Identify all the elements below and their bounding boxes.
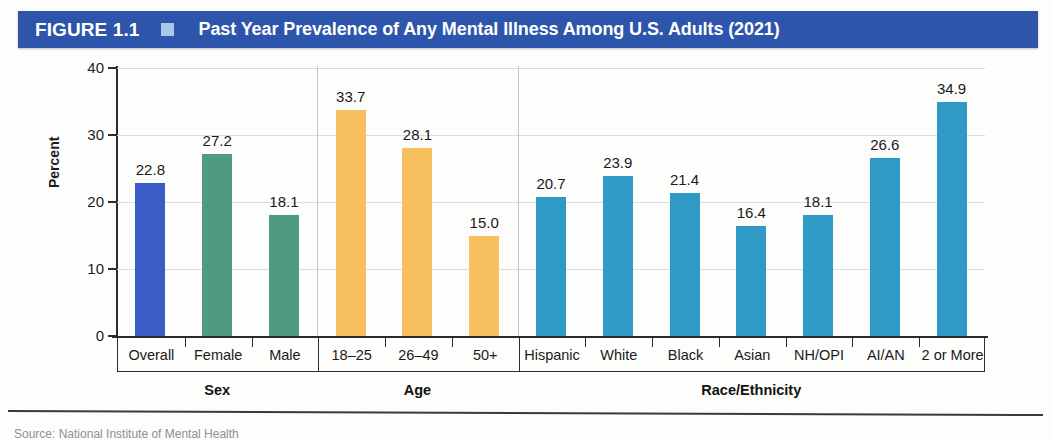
bar-value-label: 18.1 xyxy=(269,193,298,210)
category-tick xyxy=(252,338,253,347)
group-separator xyxy=(518,66,519,336)
category-label: 50+ xyxy=(452,338,519,371)
category-tick xyxy=(452,338,453,347)
y-axis-label: Percent xyxy=(46,137,62,188)
bar-chart: Percent 010203040 22.827.218.133.728.115… xyxy=(0,52,1051,392)
bar-value-label: 26.6 xyxy=(870,136,899,153)
bar xyxy=(670,193,700,336)
category-label: 2 or More xyxy=(919,338,986,371)
y-axis-tick-mark xyxy=(108,268,116,270)
category-group-divider xyxy=(318,338,319,371)
bar-value-label: 20.7 xyxy=(536,175,565,192)
y-axis-tick-label: 30 xyxy=(70,126,104,143)
y-axis-label-wrap: Percent xyxy=(52,68,72,336)
bar xyxy=(870,158,900,336)
category-label: Black xyxy=(652,338,719,371)
category-tick xyxy=(585,338,586,347)
bar xyxy=(135,183,165,336)
bar xyxy=(402,148,432,336)
category-label: 26–49 xyxy=(385,338,452,371)
category-label: Hispanic xyxy=(519,338,586,371)
y-axis-tick-label: 40 xyxy=(70,59,104,76)
figure-title-text: Past Year Prevalence of Any Mental Illne… xyxy=(198,19,779,40)
category-tick xyxy=(919,338,920,347)
footer-divider xyxy=(8,410,1043,416)
category-label-box: OverallFemaleMale18–2526–4950+HispanicWh… xyxy=(117,338,985,372)
bar-value-label: 23.9 xyxy=(603,154,632,171)
bar xyxy=(269,215,299,336)
bar xyxy=(803,215,833,336)
category-group-divider xyxy=(519,338,520,371)
group-separator xyxy=(317,66,318,336)
y-axis-tick-mark xyxy=(108,335,116,337)
figure-title-banner: FIGURE 1.1 Past Year Prevalence of Any M… xyxy=(18,11,1038,48)
plot-area: 22.827.218.133.728.115.020.723.921.416.4… xyxy=(117,68,985,336)
bar xyxy=(736,226,766,336)
category-tick xyxy=(719,338,720,347)
bar xyxy=(937,102,967,336)
bar xyxy=(603,176,633,336)
category-label: NH/OPI xyxy=(786,338,853,371)
category-tick xyxy=(185,338,186,347)
y-axis-tick-mark xyxy=(108,201,116,203)
group-label: Age xyxy=(404,382,431,398)
gridline xyxy=(117,68,985,69)
bar-value-label: 18.1 xyxy=(803,193,832,210)
bar-value-label: 22.8 xyxy=(136,161,165,178)
category-tick xyxy=(385,338,386,347)
category-label: AI/AN xyxy=(852,338,919,371)
bar-value-label: 21.4 xyxy=(670,171,699,188)
source-note: Source: National Institute of Mental Hea… xyxy=(14,427,239,440)
category-tick xyxy=(652,338,653,347)
category-label: White xyxy=(585,338,652,371)
y-axis-tick-mark xyxy=(108,67,116,69)
y-axis-tick-label: 10 xyxy=(70,260,104,277)
bar-value-label: 27.2 xyxy=(203,132,232,149)
category-label: Asian xyxy=(719,338,786,371)
category-tick xyxy=(852,338,853,347)
bar-value-label: 16.4 xyxy=(737,204,766,221)
bar-value-label: 34.9 xyxy=(937,80,966,97)
y-axis-tick-label: 20 xyxy=(70,193,104,210)
category-label: Male xyxy=(252,338,319,371)
bar xyxy=(202,154,232,336)
bar xyxy=(469,236,499,337)
bar-value-label: 33.7 xyxy=(336,88,365,105)
bar-value-label: 15.0 xyxy=(470,214,499,231)
category-label: Female xyxy=(185,338,252,371)
bar xyxy=(536,197,566,336)
category-tick xyxy=(786,338,787,347)
y-axis-tick-label: 0 xyxy=(70,327,104,344)
bar xyxy=(336,110,366,336)
square-marker-icon xyxy=(161,23,174,36)
bar-value-label: 28.1 xyxy=(403,126,432,143)
y-axis-tick-mark xyxy=(108,134,116,136)
figure-number-label: FIGURE 1.1 xyxy=(35,19,139,41)
category-label: Overall xyxy=(118,338,185,371)
category-label: 18–25 xyxy=(318,338,385,371)
figure-panel: FIGURE 1.1 Past Year Prevalence of Any M… xyxy=(0,0,1051,440)
gridline xyxy=(117,135,985,136)
group-label: Race/Ethnicity xyxy=(701,382,801,398)
group-label: Sex xyxy=(204,382,230,398)
